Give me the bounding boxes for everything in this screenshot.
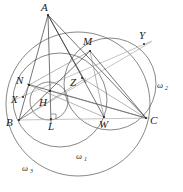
label-point-B: B bbox=[6, 116, 13, 128]
label-point-M: M bbox=[82, 35, 93, 47]
label-point-W: W bbox=[99, 118, 109, 130]
label-point-H: H bbox=[38, 96, 48, 108]
segment-BC bbox=[17, 118, 150, 120]
label-point-C: C bbox=[150, 114, 158, 126]
dot-Y bbox=[143, 43, 145, 45]
label-circle-omega2: ω 2 bbox=[157, 80, 168, 91]
dot-H bbox=[49, 90, 51, 92]
label-point-N: N bbox=[15, 74, 24, 86]
dot-B bbox=[18, 119, 20, 121]
dot-Z bbox=[81, 77, 83, 79]
circle-omega2 bbox=[64, 38, 156, 130]
geometry-figure-svg: A B C M N X Y Z H L W ω 1 ω 2 ω 3 bbox=[0, 0, 183, 192]
label-omega1-subscript: 1 bbox=[84, 156, 87, 162]
dot-M bbox=[89, 50, 91, 52]
geometry-figure-root: A B C M N X Y Z H L W ω 1 ω 2 ω 3 bbox=[0, 0, 183, 192]
label-circle-omega3: ω 3 bbox=[22, 163, 33, 174]
label-omega2-subscript: 2 bbox=[165, 85, 168, 91]
label-point-Y: Y bbox=[139, 29, 147, 41]
segment-XY bbox=[14, 41, 152, 100]
label-point-Z: Z bbox=[70, 76, 77, 88]
label-omega1-glyph: ω bbox=[76, 151, 82, 161]
segment-AL-altitude bbox=[48, 15, 51, 123]
dot-C bbox=[145, 117, 147, 119]
label-circle-omega1: ω 1 bbox=[76, 151, 87, 162]
right-angle-mark-group bbox=[51, 114, 56, 119]
label-point-A: A bbox=[40, 1, 48, 13]
dot-X bbox=[22, 96, 24, 98]
segment-MC bbox=[90, 51, 146, 118]
label-point-X: X bbox=[10, 93, 19, 105]
label-omega3-subscript: 3 bbox=[29, 168, 33, 174]
label-omega2-glyph: ω bbox=[157, 80, 163, 90]
label-omega3-glyph: ω bbox=[22, 163, 28, 173]
dot-A bbox=[47, 14, 49, 16]
point-dots-group bbox=[18, 14, 147, 121]
segment-MN bbox=[29, 51, 90, 85]
point-labels-group: A B C M N X Y Z H L W bbox=[6, 1, 158, 132]
segment-HC bbox=[50, 91, 146, 118]
label-point-L: L bbox=[47, 120, 54, 132]
right-angle-at-L bbox=[51, 114, 56, 119]
dot-N bbox=[28, 84, 30, 86]
circle-omega1 bbox=[13, 53, 107, 147]
